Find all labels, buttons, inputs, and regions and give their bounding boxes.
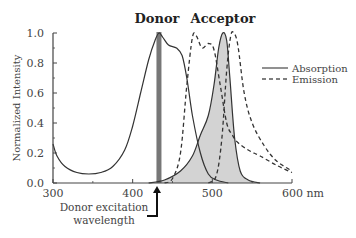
legend-absorption-label: Absorption (291, 63, 348, 74)
donor-header: Donor (135, 11, 180, 26)
y-tick-label: 0.0 (27, 177, 45, 190)
y-tick-label: 0.2 (27, 147, 45, 160)
x-tick-label: 500 (202, 187, 223, 200)
acceptor-absorption-fill (149, 33, 261, 183)
plot-area (53, 32, 292, 183)
excitation-bar (156, 32, 161, 183)
donor-absorption-line (53, 33, 228, 183)
y-tick-label: 1.0 (27, 27, 45, 40)
x-tick-label: 300 (43, 187, 64, 200)
annotation-line2: wavelength (73, 214, 135, 226)
excitation-annotation: Donor excitation wavelength (60, 186, 161, 226)
legend: Absorption Emission (262, 63, 348, 85)
annotation-line1: Donor excitation (60, 201, 149, 213)
arrow-head-icon (153, 186, 161, 193)
x-tick-label: 600 nm (282, 187, 325, 200)
y-tick-label: 0.8 (27, 57, 45, 70)
annotation-arrow (147, 192, 157, 216)
y-tick-label: 0.6 (27, 87, 45, 100)
y-axis-label: Normalized Intensity (11, 54, 22, 161)
legend-emission-label: Emission (292, 74, 338, 85)
spectra-chart: 0.00.20.40.60.81.0 300400500600 nm Norma… (0, 0, 356, 238)
acceptor-header: Acceptor (190, 11, 256, 26)
x-tick-label: 400 (122, 187, 143, 200)
y-tick-label: 0.4 (27, 117, 45, 130)
